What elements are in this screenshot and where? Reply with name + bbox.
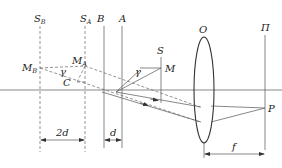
label-f: f (231, 141, 238, 152)
label-d: d (110, 127, 116, 138)
optics-diagram: SB SA B A S M MB MA C γ γ O Π P 2d d f (0, 0, 282, 168)
label-p: P (267, 103, 275, 114)
label-b: B (96, 13, 104, 24)
ray-upper (116, 92, 201, 107)
label-gamma-right: γ (135, 66, 141, 77)
ray-lower (102, 92, 201, 122)
label-gamma-left: γ (60, 66, 66, 77)
label-c: C (63, 77, 71, 88)
refracted-upper (211, 106, 265, 108)
label-pi: Π (260, 22, 270, 33)
ma-c-line (77, 66, 85, 82)
label-s: S (157, 45, 164, 56)
ma-ray (85, 66, 200, 107)
label-mb: MB (21, 62, 37, 75)
label-sa: SA (80, 13, 92, 26)
label-m: M (164, 63, 176, 74)
label-2d: 2d (55, 127, 69, 138)
refracted-lower (211, 108, 265, 122)
label-o: O (199, 24, 207, 35)
label-sb: SB (34, 13, 46, 26)
label-a: A (118, 13, 126, 24)
diagram-canvas: SB SA B A S M MB MA C γ γ O Π P 2d d f (0, 0, 282, 168)
